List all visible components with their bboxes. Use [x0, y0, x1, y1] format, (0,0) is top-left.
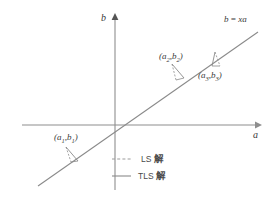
- legend-item-ls-label: LS 解: [141, 154, 164, 164]
- point-label-a2-b2: (a2,b2): [159, 52, 183, 63]
- point-label-a3-b3: (a3,b3): [198, 71, 222, 82]
- point-label-a1-b1-close: ): [75, 132, 78, 142]
- line-equation-operator: =: [229, 14, 239, 24]
- point-marker-a1-b1-base: [71, 161, 78, 162]
- figure-canvas: b a b = xa (a1,b1) (a2,b2) (a3,b3) LS 解 …: [0, 0, 277, 206]
- point-marker-a1-b1-solid-leg: [66, 147, 78, 161]
- point-marker-a2-b2-base: [176, 78, 184, 80]
- x-axis-label: a: [253, 130, 258, 140]
- point-marker-a2-b2: [172, 64, 184, 80]
- x-axis-arrowhead-icon: [255, 122, 262, 129]
- line-equation-rhs: xa: [238, 14, 247, 24]
- y-axis-label: b: [101, 13, 106, 23]
- x-axis: [22, 122, 262, 129]
- y-axis: [112, 13, 119, 190]
- legend-item-ls-latin: LS: [141, 154, 151, 164]
- point-label-a3-b3-close: ): [219, 70, 222, 80]
- legend-item-tls-latin: TLS: [138, 171, 154, 181]
- point-marker-a3-b3-solid-leg: [212, 52, 215, 66]
- y-axis-arrowhead-icon: [112, 13, 119, 20]
- legend-item-tls-cjk: 解: [156, 170, 166, 181]
- point-label-a1-b1: (a1,b1): [54, 133, 78, 144]
- legend-item-tls-label: TLS 解: [138, 171, 166, 181]
- legend-item-ls-cjk: 解: [154, 153, 164, 164]
- point-label-a2-b2-close: ): [180, 51, 183, 61]
- line-equation-label: b = xa: [224, 15, 247, 24]
